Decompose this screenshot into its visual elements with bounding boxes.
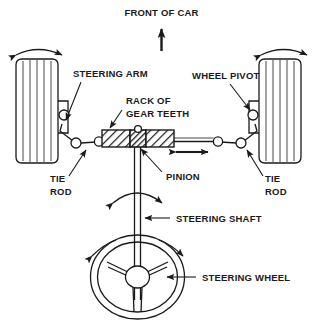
label-pinion: PINION bbox=[166, 171, 200, 182]
pinion-gear-nub bbox=[135, 126, 142, 133]
left-wheel-steer-arc bbox=[16, 50, 62, 56]
left-tie-rod bbox=[81, 142, 96, 143]
right-outer-ball-joint bbox=[236, 138, 246, 148]
label-tie-rod-right-line2: ROD bbox=[265, 186, 287, 197]
rack-right-segment bbox=[146, 130, 174, 147]
label-steering-arm: STEERING ARM bbox=[73, 68, 148, 79]
steering-diagram: FRONT OF CAR STEERING ARM WHEEL PIVOT RA… bbox=[0, 0, 323, 325]
label-rack-line2: GEAR TEETH bbox=[126, 108, 189, 119]
leader-rack bbox=[110, 110, 122, 128]
shaft-rotation-arc bbox=[113, 193, 162, 203]
right-wheel-steer-arc bbox=[261, 50, 307, 56]
label-rack-line1: RACK OF bbox=[126, 95, 171, 106]
right-tie-rod bbox=[221, 142, 236, 143]
left-wheel-assembly bbox=[16, 50, 112, 164]
leader-pinion bbox=[141, 149, 162, 172]
right-wheel-assembly bbox=[152, 50, 307, 164]
label-tie-rod-left-line2: ROD bbox=[50, 186, 72, 197]
right-inner-ball-joint bbox=[213, 137, 222, 146]
steering-wheel-hub bbox=[126, 266, 150, 288]
diagram-canvas: FRONT OF CAR STEERING ARM WHEEL PIVOT RA… bbox=[0, 0, 323, 325]
left-outer-ball-joint bbox=[71, 138, 81, 148]
right-wheel-pivot bbox=[248, 110, 258, 120]
rack-and-pinion-assembly bbox=[102, 126, 208, 152]
label-steering-wheel: STEERING WHEEL bbox=[202, 272, 290, 283]
label-front-of-car: FRONT OF CAR bbox=[124, 7, 198, 18]
leader-wheel-pivot bbox=[230, 84, 250, 110]
label-tie-rod-right-line1: TIE bbox=[265, 173, 280, 184]
leader-tie-rod-left bbox=[69, 150, 86, 176]
label-wheel-pivot: WHEEL PIVOT bbox=[192, 70, 259, 81]
label-tie-rod-left-line1: TIE bbox=[50, 173, 65, 184]
label-steering-shaft: STEERING SHAFT bbox=[176, 213, 262, 224]
rack-left-segment bbox=[102, 130, 130, 147]
